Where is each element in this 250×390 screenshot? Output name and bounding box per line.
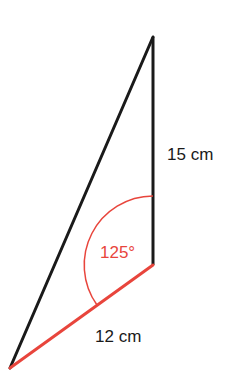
side-15-label: 15 cm — [167, 145, 213, 164]
triangle-diagram: 15 cm 12 cm 125° — [0, 0, 250, 390]
angle-label: 125° — [100, 243, 135, 262]
hypotenuse-line — [10, 37, 153, 368]
side-12-label: 12 cm — [95, 327, 141, 346]
